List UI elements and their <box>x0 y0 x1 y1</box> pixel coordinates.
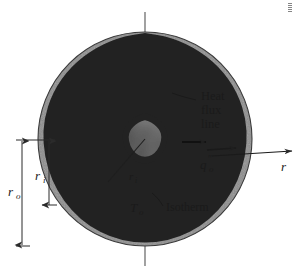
heat-flux-double-prime: ″ <box>208 153 212 164</box>
outer-radius-subscript: o <box>16 191 21 201</box>
heat-flux-line-label-3: line <box>201 117 220 131</box>
inner-radius-center-subscript: i <box>135 176 137 185</box>
heat-flux-line-label-1: Heat <box>201 89 225 103</box>
heat-flux-line-label-2: flux <box>201 103 222 117</box>
scan-artifact <box>288 3 292 12</box>
isotherm-label: Isotherm <box>166 200 209 214</box>
heat-flux-symbol: q <box>200 157 207 172</box>
inner-radius-center-symbol: r <box>129 170 134 182</box>
surface-temperature-symbol: T <box>130 200 138 215</box>
heat-flux-subscript: o <box>209 164 214 174</box>
figure-root: Heat flux line Isotherm T o q ″ o r r i … <box>0 0 304 277</box>
conduction-flux-plot-figure: Heat flux line Isotherm T o q ″ o r r i … <box>0 0 304 277</box>
surface-temperature-subscript: o <box>139 207 144 217</box>
